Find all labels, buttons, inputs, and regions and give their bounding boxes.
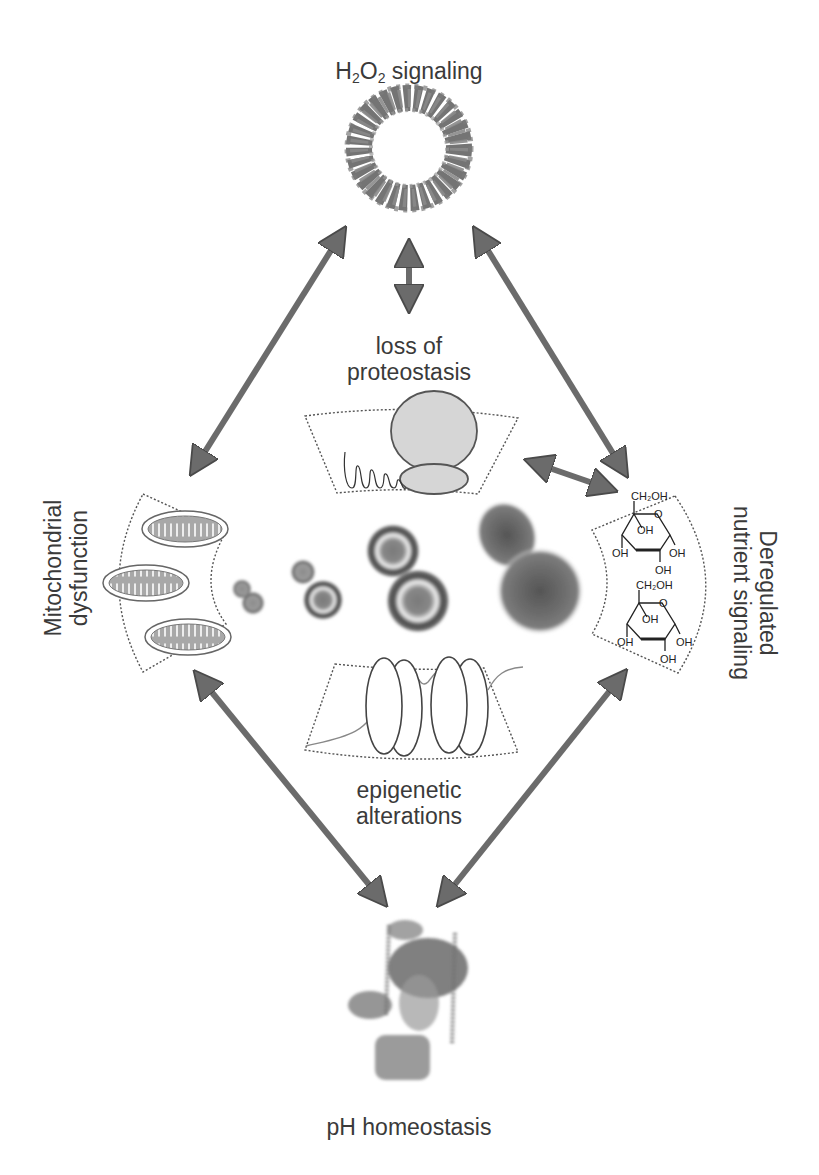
svg-text:OH: OH	[676, 636, 693, 648]
diagram-canvas: CH₂OH O OH OH OH OH CH₂OH O OH OH OH OH	[0, 0, 819, 1175]
nucleosome-panel	[305, 657, 523, 759]
ribosome-small-subunit-icon	[400, 464, 468, 494]
ph-homeostasis-label: pH homeostasis	[259, 1114, 559, 1140]
svg-text:CH₂OH: CH₂OH	[631, 490, 668, 502]
svg-text:OH: OH	[617, 636, 634, 648]
svg-text:OH: OH	[655, 564, 672, 576]
svg-text:OH: OH	[612, 547, 629, 559]
mitochondrial-dysfunction-label: Mitochondrial dysfunction	[40, 453, 96, 683]
svg-text:CH₂OH: CH₂OH	[636, 579, 673, 591]
mitochondrion-icon	[142, 511, 228, 547]
aging-yeast-cells	[232, 491, 584, 635]
yeast-cell-icon	[366, 524, 450, 633]
histone-disc-icon	[366, 658, 402, 754]
glucose-panel: CH₂OH O OH OH OH OH CH₂OH O OH OH OH OH	[592, 490, 706, 673]
yeast-cell-young-icon	[232, 579, 265, 615]
svg-text:OH: OH	[669, 547, 686, 559]
svg-text:OH: OH	[637, 524, 654, 536]
aging-hallmarks-diagram: CH₂OH O OH OH OH OH CH₂OH O OH OH OH OH	[0, 0, 819, 1175]
proteostasis-panel	[305, 391, 518, 494]
proteostasis-label: loss of proteostasis	[309, 333, 509, 385]
svg-text:OH: OH	[660, 653, 677, 665]
peroxiredoxin-ring-icon	[347, 86, 471, 210]
mitochondrion-icon	[145, 619, 231, 655]
nascent-chain-icon	[344, 452, 406, 488]
epigenetic-alterations-label: epigenetic alterations	[309, 777, 509, 829]
h2o2-signaling-label: H2O2 signaling	[259, 58, 559, 91]
mitochondrion-icon	[103, 565, 189, 601]
histone-disc-icon	[431, 657, 467, 753]
v-atpase-structure-icon	[348, 920, 468, 1080]
arrow-proteostasis-right	[535, 463, 607, 488]
yeast-cell-old-icon	[465, 491, 584, 635]
mitochondria-panel	[103, 494, 231, 672]
yeast-cell-icon	[290, 559, 343, 620]
svg-text:O: O	[659, 597, 668, 609]
deregulated-nutrient-signaling-label: Deregulated nutrient signaling	[725, 478, 781, 708]
svg-text:O: O	[654, 508, 663, 520]
ribosome-large-subunit-icon	[391, 391, 477, 471]
svg-text:OH: OH	[642, 613, 659, 625]
